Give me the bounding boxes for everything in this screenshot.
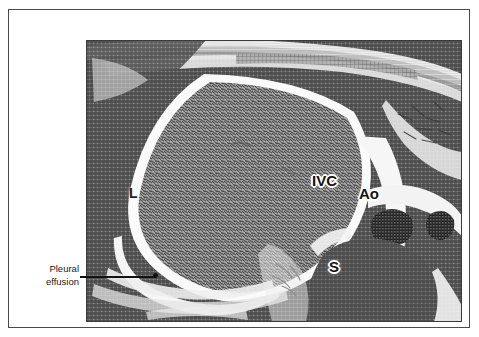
label-inferior-vena-cava: IVC: [312, 173, 337, 188]
callout-pleural-effusion: Pleural effusion: [27, 262, 79, 288]
label-aorta: Ao: [359, 186, 379, 201]
figure-root: L IVC Ao S Pleural effusion: [0, 0, 479, 337]
figure-border: L IVC Ao S Pleural effusion: [8, 9, 470, 328]
scan-image: [86, 40, 462, 322]
label-spine: S: [329, 259, 339, 274]
callout-line-1: Pleural: [27, 262, 79, 275]
callout-leader-line: [80, 276, 156, 278]
label-liver: L: [129, 186, 138, 200]
scan-graphic: [86, 40, 462, 322]
callout-leader-endpoint: [153, 273, 158, 278]
callout-line-2: effusion: [27, 275, 79, 288]
